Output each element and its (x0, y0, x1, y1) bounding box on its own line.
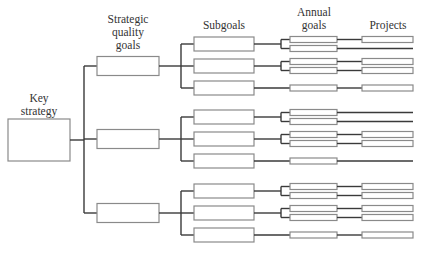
project-box (362, 37, 413, 43)
subgoal-box (194, 59, 254, 73)
project-box (362, 141, 413, 147)
subgoal-box (194, 81, 254, 95)
project-box (362, 59, 413, 65)
subgoal-box (194, 206, 254, 220)
annual-goal-box (290, 119, 337, 125)
subgoal-box (194, 184, 254, 198)
project-box (362, 206, 413, 212)
project-box (362, 193, 413, 199)
annual-goal-box (290, 141, 337, 147)
project-box (362, 184, 413, 190)
strategic-goal-box (97, 57, 159, 76)
subgoal-box (194, 228, 254, 242)
annual-goal-box (290, 215, 337, 221)
strategic-goal-box (97, 130, 159, 149)
annual-goal-box (290, 193, 337, 199)
annual-goal-box (290, 110, 337, 116)
project-box (362, 132, 413, 138)
annual-goal-box (290, 68, 337, 74)
annual-goal-box (290, 132, 337, 138)
subgoal-box (194, 110, 254, 124)
project-box (362, 232, 413, 238)
annual-goal-box (290, 37, 337, 43)
project-box (362, 215, 413, 221)
project-box (362, 68, 413, 74)
annual-goal-box (290, 59, 337, 65)
subgoal-box (194, 132, 254, 146)
annual-goal-box (290, 184, 337, 190)
subgoal-box (194, 154, 254, 168)
annual-goal-box (290, 232, 337, 238)
annual-goal-box (290, 206, 337, 212)
annual-goal-box (290, 158, 337, 164)
annual-goal-box (290, 46, 337, 52)
hierarchy-diagram (0, 0, 425, 258)
strategic-goal-box (97, 204, 159, 223)
key-strategy-box (8, 119, 70, 161)
subgoal-box (194, 37, 254, 51)
project-box (362, 85, 413, 91)
annual-goal-box (290, 85, 337, 91)
